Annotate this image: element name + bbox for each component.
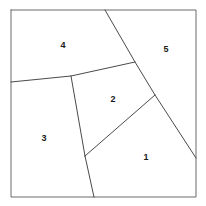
region-label-4: 4 xyxy=(60,40,65,50)
region-label-5: 5 xyxy=(163,44,168,54)
region-label-2: 2 xyxy=(110,94,115,104)
region-label-1: 1 xyxy=(143,152,148,162)
partition-diagram: 1 2 3 4 5 xyxy=(0,0,206,206)
figure-root: 1 2 3 4 5 xyxy=(0,0,206,206)
region-label-3: 3 xyxy=(41,133,46,143)
region-faces xyxy=(11,10,196,197)
